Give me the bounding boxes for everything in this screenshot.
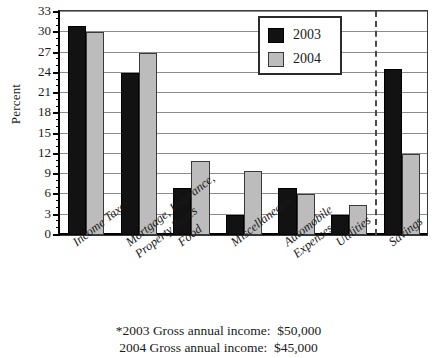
y-axis-tick-label: 27 xyxy=(38,44,51,60)
legend-label-2003: 2003 xyxy=(293,27,321,43)
y-axis-tick-label: 33 xyxy=(38,3,51,19)
y-axis-tick xyxy=(53,52,60,54)
y-axis-tick xyxy=(53,72,60,74)
y-axis-title: Percent xyxy=(8,64,24,144)
y-axis-tick-label: 6 xyxy=(45,185,52,201)
y-axis-minor-tick xyxy=(56,180,60,181)
footnote-line-1: *2003 Gross annual income: $50,000 xyxy=(0,322,437,339)
y-axis-minor-tick xyxy=(56,139,60,140)
chart-footnote: *2003 Gross annual income: $50,000 2004 … xyxy=(0,322,437,356)
y-axis-minor-tick xyxy=(56,25,60,26)
gridline xyxy=(60,52,427,53)
bar-chart: Percent 03691215182124273033 Income Taxe… xyxy=(0,0,437,358)
y-axis-minor-tick xyxy=(56,160,60,161)
gridline xyxy=(60,72,427,73)
y-axis-tick xyxy=(53,214,60,216)
gridline xyxy=(60,92,427,93)
y-axis-tick xyxy=(53,11,60,13)
y-axis-minor-tick xyxy=(56,220,60,221)
y-axis-minor-tick xyxy=(56,119,60,120)
y-axis-tick-label: 18 xyxy=(38,104,51,120)
y-axis-minor-tick xyxy=(56,146,60,147)
y-axis-minor-tick xyxy=(56,126,60,127)
y-axis-tick-label: 30 xyxy=(38,23,51,39)
y-axis-minor-tick xyxy=(56,200,60,201)
x-axis-category-labels: Income TaxesMortgage, Insurance,Property… xyxy=(58,238,437,328)
y-axis-minor-tick xyxy=(56,166,60,167)
legend-label-2004: 2004 xyxy=(293,51,321,67)
gridline xyxy=(60,31,427,32)
footnote-line-2: 2004 Gross annual income: $45,000 xyxy=(0,339,437,356)
y-axis-minor-tick xyxy=(56,45,60,46)
y-axis-tick xyxy=(53,31,60,33)
y-axis-tick-label: 21 xyxy=(38,84,51,100)
y-axis-tick-label: 24 xyxy=(38,64,51,80)
y-axis-tick xyxy=(53,133,60,135)
y-axis-minor-tick xyxy=(56,187,60,188)
y-axis-minor-tick xyxy=(56,85,60,86)
y-axis-tick-label: 0 xyxy=(45,226,52,242)
bar-2004-income-taxes xyxy=(86,32,104,235)
plot-area: 03691215182124273033 xyxy=(58,10,428,236)
y-axis-minor-tick xyxy=(56,207,60,208)
y-axis-minor-tick xyxy=(56,99,60,100)
y-axis-tick xyxy=(53,92,60,94)
legend-item-2003: 2003 xyxy=(268,23,340,47)
y-axis-minor-tick xyxy=(56,106,60,107)
y-axis-tick xyxy=(53,153,60,155)
gridline xyxy=(60,112,427,113)
bar-2003-savings xyxy=(384,69,402,235)
y-axis-tick xyxy=(53,193,60,195)
y-axis-tick-label: 15 xyxy=(38,125,51,141)
y-axis-minor-tick xyxy=(56,18,60,19)
legend-swatch-black-square xyxy=(268,28,284,43)
y-axis-tick xyxy=(53,112,60,114)
y-axis-tick xyxy=(53,234,60,236)
gridline xyxy=(60,11,427,12)
dashed-separator-line xyxy=(375,11,377,235)
y-axis-minor-tick xyxy=(56,58,60,59)
y-axis-tick-label: 9 xyxy=(45,165,52,181)
legend-item-2004: 2004 xyxy=(268,47,340,71)
legend-swatch-gray-square xyxy=(268,52,284,67)
y-axis-tick-label: 12 xyxy=(38,145,51,161)
y-axis-minor-tick xyxy=(56,79,60,80)
gridline xyxy=(60,153,427,154)
y-axis-minor-tick xyxy=(56,227,60,228)
gridline xyxy=(60,133,427,134)
y-axis-tick-label: 3 xyxy=(45,206,52,222)
y-axis-tick xyxy=(53,173,60,175)
y-axis-minor-tick xyxy=(56,38,60,39)
y-axis-minor-tick xyxy=(56,65,60,66)
bar-2004-mortgage-insurance-property-taxes xyxy=(139,53,157,235)
bar-2003-income-taxes xyxy=(68,26,86,235)
chart-legend: 2003 2004 xyxy=(258,16,342,75)
